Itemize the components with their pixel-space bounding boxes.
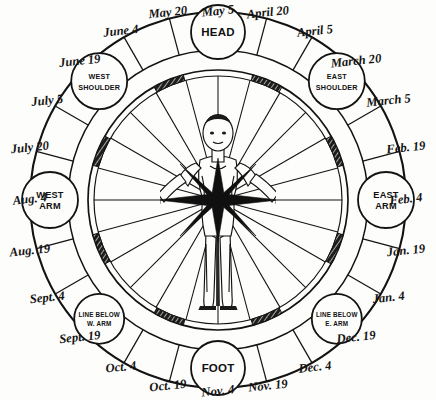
date-label: Jan. 4 bbox=[371, 289, 405, 306]
body-node-label: LINE BELOW bbox=[316, 311, 358, 318]
body-node-label: E. ARM bbox=[325, 320, 348, 327]
wheel-svg: HEADEASTSHOULDEREASTARMLINE BELOWE. ARMF… bbox=[0, 0, 436, 400]
zodiacal-man-diagram: HEADEASTSHOULDEREASTARMLINE BELOWE. ARMF… bbox=[0, 0, 436, 400]
date-label: Feb. 19 bbox=[385, 138, 427, 156]
date-label: Nov. 19 bbox=[247, 376, 289, 394]
band-spoke bbox=[55, 106, 88, 125]
band-spoke bbox=[124, 37, 143, 70]
date-label: Aug. 19 bbox=[8, 241, 52, 259]
body-node-label: LINE BELOW bbox=[78, 311, 120, 318]
date-label: Oct. 19 bbox=[149, 377, 188, 395]
band-spoke bbox=[293, 330, 312, 363]
body-node-label: WEST bbox=[88, 72, 110, 81]
center-ray bbox=[98, 203, 208, 233]
date-label: April 5 bbox=[295, 22, 333, 40]
date-label: Oct. 4 bbox=[105, 358, 137, 375]
body-node-label: W. ARM bbox=[87, 320, 111, 327]
radiant-star-icon bbox=[158, 158, 278, 242]
body-node-label: FOOT bbox=[202, 362, 235, 374]
date-label: May 20 bbox=[147, 3, 189, 21]
body-node-label: EAST bbox=[327, 72, 347, 81]
band-spoke bbox=[348, 106, 381, 125]
date-label: April 20 bbox=[245, 3, 290, 22]
date-label: Nov. 4 bbox=[200, 382, 235, 399]
center-ray bbox=[228, 203, 338, 233]
band-spoke bbox=[257, 345, 267, 382]
date-label: July 5 bbox=[30, 92, 64, 109]
body-node-label: SHOULDER bbox=[316, 83, 359, 92]
band-spoke bbox=[169, 345, 179, 382]
band-spoke bbox=[257, 18, 267, 55]
date-label: Dec. 19 bbox=[335, 328, 377, 346]
body-node-label: SHOULDER bbox=[78, 83, 121, 92]
band-spoke bbox=[169, 18, 179, 55]
date-label: June 4 bbox=[102, 22, 140, 40]
center-ray bbox=[227, 205, 326, 262]
center-ray bbox=[111, 205, 210, 262]
date-label: Feb. 4 bbox=[388, 190, 423, 207]
date-label: Dec. 4 bbox=[297, 358, 332, 375]
zodiacal-man-figure bbox=[90, 114, 346, 311]
band-spoke bbox=[293, 37, 312, 70]
body-node-label: HEAD bbox=[201, 26, 234, 38]
date-label: Jan. 19 bbox=[385, 241, 426, 259]
date-label: March 5 bbox=[365, 91, 412, 110]
